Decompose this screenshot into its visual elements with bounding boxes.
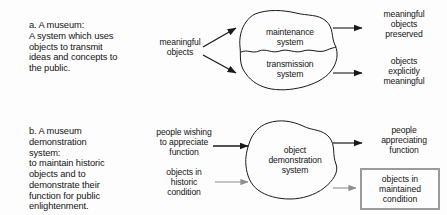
section-b-output-box-objects-in-maintained-condition: objects in maintained condition: [360, 168, 440, 210]
diagram-canvas: a. A museum: A system which uses objects…: [0, 0, 447, 215]
section-b-output-label-objects-in-maintained-condition: objects in maintained condition: [362, 174, 438, 204]
section-a-blob-part-transmission-system: transmission system: [249, 60, 331, 80]
section-a-output-label-objects-explicitly-meaningful: objects explicitly meaningful: [366, 57, 442, 87]
section-b-input-label-objects-in-historic-condition: objects in historic condition: [150, 168, 218, 198]
section-a-output-label-meaningful-objects-preserved: meaningful objects preserved: [366, 10, 442, 40]
section-b-output-label-people-appreciating-function: people appreciating function: [366, 126, 442, 156]
section-b-blob-part-object-demonstration-system: object demonstration system: [256, 146, 334, 176]
section-b-input-label-people-wishing-to-appreciate-function: people wishing to appreciate function: [148, 128, 220, 158]
section-a-blob-part-maintenance-system: maintenance system: [250, 28, 330, 48]
section-a-description: a. A museum: A system which uses objects…: [29, 20, 151, 74]
section-b-description: b. A museum demonstration system: to mai…: [29, 126, 151, 212]
section-a-input-label-meaningful-objects: meaningful objects: [146, 38, 214, 58]
